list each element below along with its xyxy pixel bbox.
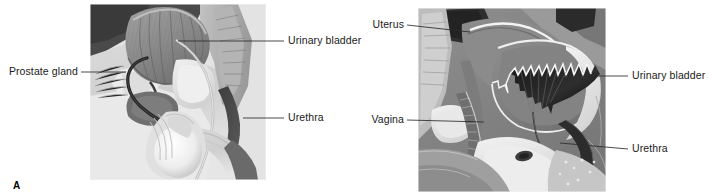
anatomy-figure: Prostate gland Urinary bladder Urethra U… <box>0 0 709 192</box>
label-urinary-bladder-b: Urinary bladder <box>632 69 706 81</box>
panel-b-illustration <box>418 8 606 192</box>
label-urethra-b: Urethra <box>632 142 668 154</box>
label-prostate-gland: Prostate gland <box>9 65 78 77</box>
label-vagina: Vagina <box>371 113 404 125</box>
label-urethra-a: Urethra <box>288 111 324 123</box>
panel-a-illustration <box>90 4 266 180</box>
panel-caption-a: A <box>13 180 20 191</box>
label-uterus: Uterus <box>372 18 404 30</box>
label-urinary-bladder-a: Urinary bladder <box>288 34 362 46</box>
